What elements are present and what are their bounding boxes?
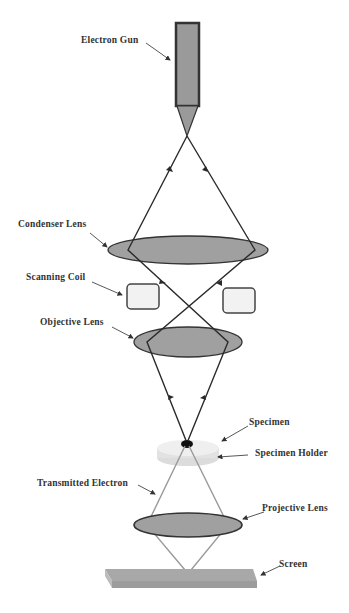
projective-lens: [134, 513, 242, 537]
label-scanning-coil: Scanning Coil: [26, 272, 85, 282]
label-specimen-holder: Specimen Holder: [255, 448, 328, 458]
tem-diagram: [0, 0, 349, 613]
screen: [105, 569, 257, 588]
label-objective-lens: Objective Lens: [40, 317, 104, 327]
label-transmitted-electron: Transmitted Electron: [37, 478, 128, 488]
objective-lens: [134, 327, 242, 357]
beam-direction-arrows: [159, 166, 222, 400]
specimen: [181, 440, 193, 448]
label-electron-gun: Electron Gun: [81, 35, 138, 45]
label-specimen: Specimen: [249, 417, 290, 427]
scanning-coil-left: [127, 284, 159, 309]
scanning-coil-right: [223, 288, 255, 313]
electron-gun: [176, 23, 199, 136]
label-condenser-lens: Condenser Lens: [18, 219, 86, 229]
label-projective-lens: Projective Lens: [262, 503, 328, 513]
label-screen: Screen: [279, 559, 307, 569]
